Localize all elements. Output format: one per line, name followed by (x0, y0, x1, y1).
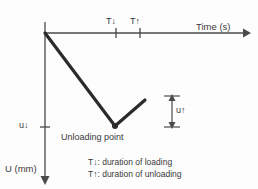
time-axis-label: Time (s) (196, 22, 230, 32)
u-down-tick-label: u↓ (19, 121, 29, 130)
u-up-dimension-label: u↑ (176, 106, 186, 115)
t-up-tick-label: T↑ (130, 17, 140, 26)
u-up-dimension-arrow-top-icon (169, 94, 176, 101)
legend-entry-unloading: T↑: duration of unloading (88, 170, 182, 179)
t-down-tick-label: T↓ (106, 17, 116, 26)
u-up-dimension-arrow-bottom-icon (169, 122, 176, 129)
time-axis-arrow-icon (243, 29, 251, 38)
displacement-time-diagram: Time (s) U (mm) T↓ T↑ u↓ u↑ Unloading po… (0, 0, 258, 189)
displacement-axis-label: U (mm) (5, 164, 37, 174)
legend-entry-loading: T↓: duration of loading (88, 158, 172, 167)
unloading-point-label: Unloading point (61, 133, 124, 142)
displacement-axis-arrow-icon (41, 176, 50, 185)
loading-segment (45, 33, 115, 126)
unloading-segment (115, 100, 145, 126)
unloading-point-marker (112, 123, 118, 129)
